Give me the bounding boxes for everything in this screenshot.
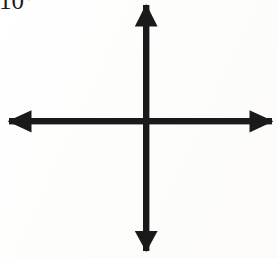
figure-canvas: 10° [0,0,277,258]
vertical-axis-shaft [143,5,149,251]
axes-arrow-figure [0,0,277,258]
angle-label: 10° [0,0,47,15]
right-arrowhead [250,110,274,132]
left-arrowhead [8,110,32,132]
horizontal-axis-shaft [9,118,272,124]
down-arrowhead [135,231,158,252]
up-arrowhead [135,4,158,27]
